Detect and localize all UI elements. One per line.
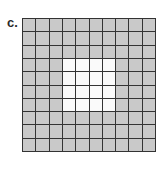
grid-cell-shaded [50,19,62,31]
grid-cell-shaded [50,99,62,111]
grid-cell-unshaded [76,86,88,98]
grid-cell-shaded [23,125,35,137]
grid-cell-shaded [50,32,62,44]
grid-cell-shaded [23,112,35,124]
grid-cell-shaded [63,32,75,44]
grid-cell-shaded [90,139,102,151]
grid-cell-shaded [129,32,141,44]
grid-cell-unshaded [63,72,75,84]
grid-cell-shaded [36,72,48,84]
grid-cell-unshaded [103,72,115,84]
grid-cell-shaded [103,46,115,58]
grid-cell-shaded [50,125,62,137]
grid-cell-unshaded [103,86,115,98]
grid-cell-shaded [36,125,48,137]
grid-cell-shaded [90,112,102,124]
grid-cell-shaded [129,125,141,137]
grid-cell-shaded [103,125,115,137]
grid-cell-shaded [50,112,62,124]
grid-cell-shaded [36,59,48,71]
grid-cell-shaded [23,19,35,31]
grid-cell-shaded [63,139,75,151]
grid-cell-shaded [36,86,48,98]
grid-cell-shaded [129,46,141,58]
grid-cell-unshaded [76,99,88,111]
grid-cell-shaded [50,86,62,98]
grid-cell-shaded [103,32,115,44]
grid-cell-shaded [129,139,141,151]
grid-cell-shaded [36,46,48,58]
grid-cell-shaded [143,72,155,84]
grid-cell-shaded [103,112,115,124]
grid-cell-unshaded [63,59,75,71]
grid-cell-shaded [143,112,155,124]
grid-cell-shaded [36,99,48,111]
grid-cell-unshaded [103,99,115,111]
grid-cell-shaded [36,139,48,151]
grid-cell-shaded [129,86,141,98]
grid-cell-shaded [143,125,155,137]
grid-cell-shaded [116,112,128,124]
grid-cell-shaded [23,32,35,44]
grid-cell-shaded [103,19,115,31]
grid-cell-shaded [23,59,35,71]
grid-cell-shaded [36,19,48,31]
grid-cell-shaded [63,112,75,124]
grid-cell-shaded [63,125,75,137]
grid-cell-shaded [90,19,102,31]
grid-cell-shaded [76,139,88,151]
grid-cell-shaded [50,59,62,71]
grid-cell-shaded [90,125,102,137]
grid-cell-shaded [143,59,155,71]
grid-cell-shaded [23,46,35,58]
grid-cell-shaded [116,86,128,98]
grid-cell-shaded [76,19,88,31]
grid-cell-shaded [23,139,35,151]
grid-cell-shaded [143,99,155,111]
grid-cell-shaded [76,32,88,44]
grid-cell-unshaded [90,59,102,71]
grid-cell-unshaded [76,59,88,71]
grid-cell-shaded [23,99,35,111]
grid-cell-shaded [116,59,128,71]
hundred-grid [22,18,156,152]
grid-cell-shaded [90,32,102,44]
grid-cell-shaded [50,139,62,151]
grid-cell-unshaded [103,59,115,71]
grid-cell-shaded [50,72,62,84]
grid-cell-shaded [116,72,128,84]
grid-cell-shaded [143,139,155,151]
grid-cell-shaded [129,99,141,111]
grid-cell-shaded [129,59,141,71]
grid-cell-shaded [76,112,88,124]
grid-cell-shaded [143,32,155,44]
grid-cell-shaded [143,46,155,58]
figure-label: c. [7,15,18,30]
grid-cell-shaded [129,72,141,84]
grid-cell-shaded [63,19,75,31]
grid-cell-shaded [63,46,75,58]
grid-cell-shaded [116,19,128,31]
grid-cell-shaded [36,112,48,124]
grid-cell-unshaded [63,99,75,111]
grid-cell-unshaded [90,86,102,98]
grid-cell-shaded [103,139,115,151]
grid-cell-shaded [129,19,141,31]
grid-cell-unshaded [90,72,102,84]
grid-cell-unshaded [90,99,102,111]
grid-cell-shaded [76,125,88,137]
grid-cell-shaded [76,46,88,58]
grid-cell-shaded [116,99,128,111]
grid-cell-shaded [116,139,128,151]
grid-cell-shaded [129,112,141,124]
grid-cell-shaded [90,46,102,58]
grid-cell-shaded [116,46,128,58]
grid-cell-shaded [116,125,128,137]
grid-cell-shaded [143,19,155,31]
grid-cell-shaded [116,32,128,44]
grid-cell-unshaded [63,86,75,98]
grid-cell-shaded [36,32,48,44]
grid-cell-shaded [143,86,155,98]
grid-cell-unshaded [76,72,88,84]
grid-cell-shaded [50,46,62,58]
